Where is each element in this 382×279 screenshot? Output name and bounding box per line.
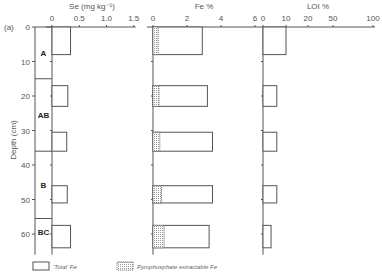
legend-total-fe-swatch <box>33 262 49 270</box>
horizon-label-b: B <box>41 181 47 190</box>
loi-bar <box>263 27 286 55</box>
se-bar <box>52 86 68 107</box>
fe-axis-title: Fe % <box>195 2 214 11</box>
fe-bar <box>153 27 202 55</box>
fe-bar <box>153 132 213 151</box>
horizon-label-a: A <box>41 49 47 58</box>
fe-tick-label: 0 <box>151 14 156 23</box>
depth-tick-label: 50 <box>21 196 30 205</box>
fe-tick-label: 2 <box>185 14 190 23</box>
se-tick-label: 0.5 <box>74 14 86 23</box>
se-tick-label: 1.5 <box>128 14 140 23</box>
fe-tick-label: 6 <box>253 14 258 23</box>
horizon-label-ab: AB <box>38 111 50 120</box>
y-axis-label: Depth (cm) <box>9 120 18 160</box>
fe-pyrophosphate-bar <box>153 86 159 107</box>
se-bar <box>52 186 67 203</box>
loi-tick-label: 0 <box>261 14 266 23</box>
loi-tick-label: 100 <box>366 14 380 23</box>
legend-pyrophosphate-swatch <box>117 262 133 270</box>
se-tick-label: 0 <box>50 14 55 23</box>
se-axis-title: Se (mg kg⁻¹) <box>69 2 115 11</box>
depth-tick-label: 60 <box>21 230 30 239</box>
se-bar <box>52 132 67 151</box>
legend-pyrophosphate-label: Pyrophosphate extractable Fe <box>137 264 218 270</box>
loi-tick-label: 10 <box>282 14 291 23</box>
fe-bar <box>153 186 213 203</box>
fe-pyrophosphate-bar <box>153 132 160 151</box>
loi-bar <box>263 86 277 107</box>
loi-tick-label: 20 <box>304 14 313 23</box>
loi-bar <box>263 186 277 203</box>
fe-pyrophosphate-bar <box>153 225 164 247</box>
loi-tick-label: 50 <box>329 14 338 23</box>
fe-bar <box>153 86 207 107</box>
loi-bar <box>263 132 277 151</box>
depth-tick-label: 10 <box>21 58 30 67</box>
panel-label: (a) <box>4 23 14 32</box>
fe-tick-label: 4 <box>219 14 224 23</box>
depth-tick-label: 20 <box>21 92 30 101</box>
loi-bar <box>263 225 271 247</box>
se-bar <box>52 27 71 55</box>
horizon-label-bc: BC <box>38 228 50 237</box>
fe-pyrophosphate-bar <box>153 186 162 203</box>
depth-tick-label: 30 <box>21 127 30 136</box>
soil-profile-chart: (a) Depth (cm) 0102030405060AABBBCSe (mg… <box>0 0 382 279</box>
loi-axis-title: LOI % <box>307 2 329 11</box>
legend-total-fe-label: 'Total' Fe <box>53 264 77 270</box>
se-bar <box>52 225 71 247</box>
fe-pyrophosphate-bar <box>153 27 158 55</box>
depth-tick-label: 40 <box>21 161 30 170</box>
depth-tick-label: 0 <box>26 23 31 32</box>
se-tick-label: 1.0 <box>101 14 113 23</box>
